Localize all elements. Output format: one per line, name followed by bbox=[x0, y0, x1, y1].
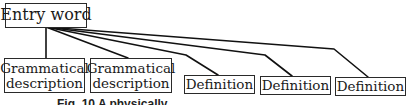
definition-node-3: Definition bbox=[335, 77, 406, 96]
definition-node-1: Definition bbox=[184, 75, 255, 94]
grammatical-description-node-1: Grammatical description bbox=[4, 58, 85, 93]
node-label-line-1: Grammatical bbox=[87, 61, 176, 75]
node-label-line-1: Grammatical bbox=[0, 61, 89, 75]
entry-word-node: Entry word bbox=[5, 3, 87, 28]
figure-caption: Fig. 10 A physically... bbox=[57, 97, 177, 105]
node-label-line-2: description bbox=[92, 76, 169, 90]
definition-node-2: Definition bbox=[260, 76, 331, 95]
node-label-line-2: description bbox=[6, 76, 83, 90]
definition-label: Definition bbox=[337, 79, 404, 93]
grammatical-description-node-2: Grammatical description bbox=[90, 58, 172, 93]
definition-label: Definition bbox=[262, 78, 329, 92]
definition-label: Definition bbox=[186, 77, 253, 91]
entry-word-label: Entry word bbox=[0, 7, 91, 24]
